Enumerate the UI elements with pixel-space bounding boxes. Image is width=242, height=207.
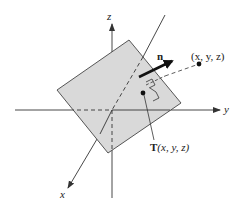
plane-normal-diagram: n (x, y, z) T(x, y, z) z y x [0, 0, 242, 207]
projection-point-label: T(x, y, z) [150, 141, 189, 154]
external-point-label: (x, y, z) [191, 50, 225, 63]
projection-point-label-args: (x, y, z) [157, 141, 189, 154]
normal-vector-label: n [157, 50, 163, 62]
z-axis-label: z [106, 10, 112, 22]
projection-point-T [141, 91, 146, 96]
external-point [197, 62, 202, 67]
projection-line [165, 64, 199, 76]
x-axis-label: x [59, 188, 65, 200]
y-axis-label: y [223, 103, 229, 115]
x-axis [68, 134, 100, 188]
